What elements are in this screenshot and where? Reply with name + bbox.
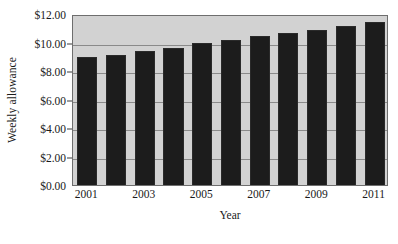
bar-chart-figure: Weekly allowance $0.00$2.00$4.00$6.00$8.… <box>0 0 398 244</box>
bar[interactable] <box>307 30 327 185</box>
bar[interactable] <box>278 33 298 185</box>
bar[interactable] <box>77 57 97 185</box>
x-tick-label: 2003 <box>132 188 155 200</box>
bar[interactable] <box>221 40 241 185</box>
x-axis-tick-labels: 200120032005200720092011 <box>72 188 388 208</box>
y-tick-label: $0.00 <box>40 180 66 192</box>
bar[interactable] <box>336 26 356 185</box>
x-tick-label: 2011 <box>362 188 385 200</box>
bar[interactable] <box>250 36 270 185</box>
y-axis-title-label: Weekly allowance <box>6 57 18 143</box>
bar[interactable] <box>135 51 155 185</box>
y-tick-label: $4.00 <box>40 123 66 135</box>
y-tick-label: $8.00 <box>40 66 66 78</box>
bar[interactable] <box>163 48 183 186</box>
y-tick-label: $10.00 <box>34 38 66 50</box>
bar[interactable] <box>365 22 385 185</box>
y-tick-label: $12.00 <box>34 9 66 21</box>
x-tick-label: 2005 <box>190 188 213 200</box>
x-tick-label: 2007 <box>247 188 270 200</box>
bars-layer <box>73 16 387 185</box>
y-axis-tick-labels: $0.00$2.00$4.00$6.00$8.00$10.00$12.00 <box>24 15 72 186</box>
x-tick-label: 2001 <box>75 188 98 200</box>
x-tick-label: 2009 <box>305 188 328 200</box>
y-axis-title: Weekly allowance <box>0 0 24 200</box>
y-tick-label: $2.00 <box>40 152 66 164</box>
x-axis-title: Year <box>72 209 388 221</box>
bar[interactable] <box>192 43 212 185</box>
bar[interactable] <box>106 55 126 185</box>
y-tick-label: $6.00 <box>40 95 66 107</box>
plot-area <box>72 15 388 186</box>
